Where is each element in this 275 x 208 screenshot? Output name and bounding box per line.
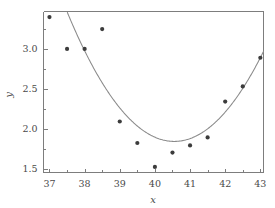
x-tick-label-41: 41 [184,178,196,189]
data-point [258,56,262,60]
x-tick-label-39: 39 [114,178,126,189]
scatter-plot: 37383940414243 1.52.02.53.0 x y [0,0,275,208]
data-point [47,15,51,19]
data-point [223,99,227,103]
y-axis-title: y [3,92,14,99]
data-point [206,135,210,139]
y-axis-tick-labels: 1.52.02.53.0 [22,43,37,174]
data-point [100,27,104,31]
y-tick-label-2.5: 2.5 [22,83,37,94]
plot-background [43,11,264,172]
y-tick-label-2.0: 2.0 [22,123,37,134]
x-tick-label-43: 43 [254,178,266,189]
x-axis-title: x [150,194,156,205]
data-point [135,141,139,145]
x-axis-tick-labels: 37383940414243 [43,178,266,189]
data-point [241,84,245,88]
data-point [170,150,174,154]
x-tick-label-37: 37 [43,178,55,189]
data-point [153,165,157,169]
figure-container: 37383940414243 1.52.02.53.0 x y [0,0,275,208]
y-tick-label-1.5: 1.5 [22,163,37,174]
data-point [83,47,87,51]
y-tick-label-3.0: 3.0 [22,43,37,54]
data-point [188,143,192,147]
x-tick-label-42: 42 [219,178,231,189]
x-tick-label-40: 40 [149,178,161,189]
data-point [118,119,122,123]
data-point [65,47,69,51]
x-tick-label-38: 38 [79,178,91,189]
